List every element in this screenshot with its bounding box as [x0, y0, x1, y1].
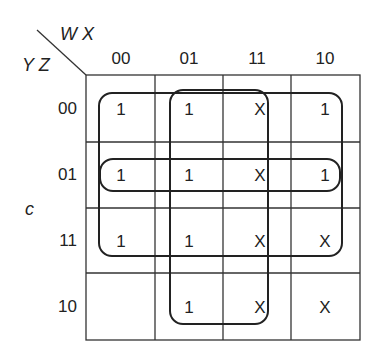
loop-middle-columns	[170, 90, 268, 324]
loop-top-three-rows	[99, 93, 342, 256]
karnaugh-map: W X Y Z c 00 01 11 10 00 01 11 10 1 1 X …	[0, 0, 373, 359]
cell-r2-c2: X	[254, 232, 265, 251]
cell-r2-c3: X	[319, 232, 330, 251]
cell-r1-c0: 1	[116, 166, 125, 185]
col-header-01: 01	[180, 49, 199, 68]
cell-r1-c1: 1	[184, 166, 193, 185]
cell-r3-c1: 1	[184, 298, 193, 317]
loop-row-01	[100, 159, 340, 191]
cell-r3-c2: X	[254, 298, 265, 317]
row-header-00: 00	[58, 99, 77, 118]
cell-r1-c2: X	[254, 166, 265, 185]
col-variables-label: W X	[60, 24, 95, 44]
col-header-11: 11	[248, 49, 266, 68]
col-header-00: 00	[112, 49, 131, 68]
row-header-01: 01	[58, 165, 77, 184]
row-header-11: 11	[59, 231, 77, 250]
cell-r0-c0: 1	[116, 100, 125, 119]
cell-r1-c3: 1	[320, 166, 329, 185]
row-header-10: 10	[58, 297, 77, 316]
cell-r2-c0: 1	[116, 232, 125, 251]
row-variables-label: Y Z	[22, 55, 51, 75]
cell-r2-c1: 1	[184, 232, 193, 251]
cell-r3-c3: X	[319, 298, 330, 317]
col-header-10: 10	[316, 49, 335, 68]
cell-r0-c2: X	[254, 100, 265, 119]
side-label: c	[25, 199, 34, 219]
cell-r0-c3: 1	[320, 100, 329, 119]
cell-r0-c1: 1	[184, 100, 193, 119]
